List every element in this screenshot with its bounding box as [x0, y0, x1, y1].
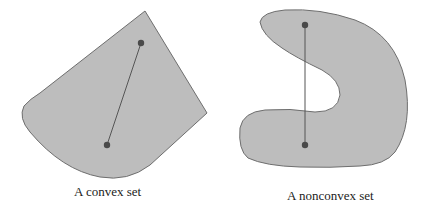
- convex-point-b: [104, 142, 110, 148]
- figure-svg: [0, 0, 429, 213]
- nonconvex-set-diagram: [240, 10, 408, 168]
- convex-set-diagram: [22, 11, 207, 178]
- nonconvex-set-caption: A nonconvex set: [287, 188, 374, 204]
- figure-canvas: A convex set A nonconvex set: [0, 0, 429, 213]
- convex-point-a: [138, 40, 144, 46]
- convex-set-caption: A convex set: [74, 184, 141, 200]
- nonconvex-point-a: [302, 22, 308, 28]
- convex-set-shape: [22, 11, 207, 178]
- nonconvex-set-shape: [240, 10, 408, 168]
- nonconvex-point-b: [302, 142, 308, 148]
